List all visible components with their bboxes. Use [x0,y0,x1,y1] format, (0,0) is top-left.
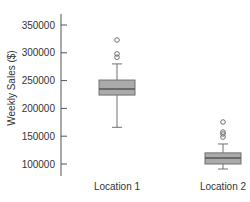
y-axis: 100000150000200000250000300000350000 [22,14,67,176]
outlier-point [221,120,226,125]
box-2 [205,120,241,169]
x-category-label: Location 2 [200,181,247,192]
x-axis-labels: Location 1Location 2 [94,181,247,192]
x-category-label: Location 1 [94,181,141,192]
box-plot-chart: 100000150000200000250000300000350000 Loc… [0,0,250,202]
y-axis-title: Weekly Sales ($) [6,50,17,125]
box-group [99,38,241,169]
outlier-point [115,38,120,43]
y-tick-label: 300000 [22,47,56,58]
y-tick-label: 350000 [22,20,56,31]
outlier-point [115,52,120,57]
iqr-box [99,80,135,95]
box-1 [99,38,135,128]
y-tick-label: 200000 [22,103,56,114]
y-tick-label: 150000 [22,131,56,142]
y-tick-label: 100000 [22,159,56,170]
y-tick-label: 250000 [22,75,56,86]
